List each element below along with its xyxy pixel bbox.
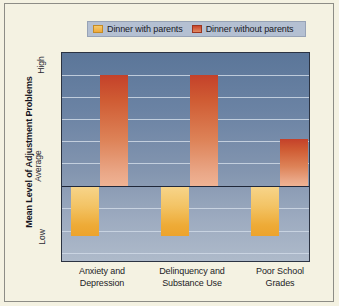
x-tick-line2: Substance Use bbox=[145, 278, 239, 290]
orange-swatch-icon bbox=[93, 25, 103, 33]
red-swatch-icon bbox=[192, 25, 202, 33]
x-tick-line2: Grades bbox=[236, 278, 324, 290]
plot-area bbox=[61, 52, 310, 262]
bar-with-parents-poor-school-grades[interactable] bbox=[251, 187, 279, 236]
legend-label-with-parents: Dinner with parents bbox=[107, 24, 183, 34]
y-tick-label-average: Average bbox=[33, 143, 43, 189]
legend-entry-dinner-with-parents: Dinner with parents bbox=[93, 24, 183, 34]
bar-with-parents-anxiety-and-depression[interactable] bbox=[71, 187, 99, 236]
figure-frame: Dinner with parents Dinner without paren… bbox=[4, 3, 334, 302]
x-tick-line1: Poor School bbox=[236, 266, 324, 278]
bar-without-parents-anxiety-and-depression[interactable] bbox=[100, 75, 128, 186]
chart-legend: Dinner with parents Dinner without paren… bbox=[87, 21, 306, 37]
gridline bbox=[62, 253, 309, 254]
x-tick-line1: Delinquency and bbox=[145, 266, 239, 278]
x-tick-label-anxiety-and-depression: Anxiety and Depression bbox=[56, 266, 148, 289]
x-tick-label-delinquency-and-substance-use: Delinquency and Substance Use bbox=[145, 266, 239, 289]
x-tick-line2: Depression bbox=[56, 278, 148, 290]
y-tick-label-low: Low bbox=[37, 214, 47, 260]
bar-without-parents-poor-school-grades[interactable] bbox=[280, 139, 308, 186]
bar-without-parents-delinquency-and-substance-use[interactable] bbox=[190, 75, 218, 186]
legend-entry-dinner-without-parents: Dinner without parents bbox=[192, 24, 294, 34]
x-tick-line1: Anxiety and bbox=[56, 266, 148, 278]
bar-with-parents-delinquency-and-substance-use[interactable] bbox=[161, 187, 189, 236]
legend-label-without-parents: Dinner without parents bbox=[206, 24, 294, 34]
chart-figure: Dinner with parents Dinner without paren… bbox=[0, 0, 339, 306]
x-tick-label-poor-school-grades: Poor School Grades bbox=[236, 266, 324, 289]
average-baseline bbox=[62, 186, 309, 187]
y-tick-label-high: High bbox=[36, 42, 46, 88]
